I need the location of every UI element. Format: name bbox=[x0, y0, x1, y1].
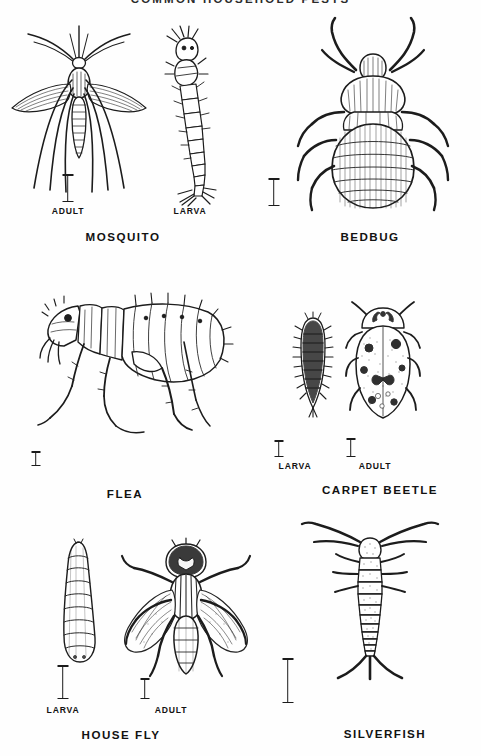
housefly-larva-icon bbox=[52, 538, 106, 666]
carpet-beetle-larva-label: LARVA bbox=[265, 461, 325, 471]
scale-bar-housefly-larva bbox=[57, 665, 68, 699]
page-title: COMMON HOUSEHOLD PESTS bbox=[0, 0, 481, 5]
housefly-larva-label: LARVA bbox=[33, 705, 93, 715]
scale-bar-carpet-beetle-larva bbox=[274, 440, 283, 457]
flea-group-label: FLEA bbox=[80, 487, 170, 500]
carpet-beetle-adult-label: ADULT bbox=[345, 461, 405, 471]
housefly-adult-label: ADULT bbox=[141, 705, 201, 715]
carpet-beetle-adult-icon bbox=[344, 300, 422, 420]
bedbug-adult-icon bbox=[292, 16, 454, 212]
mosquito-larva-icon bbox=[158, 24, 234, 206]
carpet-beetle-larva-icon bbox=[292, 312, 334, 417]
mosquito-larva-label: LARVA bbox=[160, 206, 220, 216]
mosquito-adult-icon bbox=[4, 18, 154, 193]
flea-adult-icon bbox=[32, 282, 242, 432]
silverfish-group-label: SILVERFISH bbox=[320, 727, 450, 740]
scale-bar-carpet-beetle-adult bbox=[346, 438, 355, 457]
housefly-group-label: HOUSE FLY bbox=[66, 728, 176, 741]
scale-bar-bedbug bbox=[268, 178, 279, 206]
bedbug-group-label: BEDBUG bbox=[310, 230, 430, 243]
carpet-beetle-group-label: CARPET BEETLE bbox=[300, 483, 460, 496]
housefly-adult-icon bbox=[118, 528, 254, 676]
mosquito-adult-label: ADULT bbox=[38, 206, 98, 216]
mosquito-group-label: MOSQUITO bbox=[68, 230, 178, 243]
scale-bar-flea bbox=[31, 451, 40, 466]
scale-bar-mosquito-adult bbox=[62, 174, 73, 202]
scale-bar-housefly-adult bbox=[140, 678, 149, 699]
silverfish-icon bbox=[300, 520, 440, 680]
scale-bar-silverfish bbox=[282, 658, 293, 703]
pest-identification-plate: COMMON HOUSEHOLD PESTS bbox=[0, 0, 481, 756]
